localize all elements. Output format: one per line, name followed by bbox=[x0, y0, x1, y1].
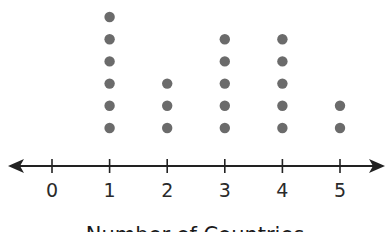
x-tick-label-5: 5 bbox=[334, 179, 346, 201]
data-dot bbox=[335, 123, 345, 133]
data-dot bbox=[220, 123, 230, 133]
data-dot bbox=[162, 78, 172, 88]
x-axis-tick-labels: 012345 bbox=[46, 179, 346, 201]
x-tick-label-2: 2 bbox=[161, 179, 173, 201]
data-dot bbox=[220, 34, 230, 44]
data-dot bbox=[220, 56, 230, 66]
dot-plot-dots bbox=[104, 12, 345, 133]
data-dot bbox=[104, 34, 114, 44]
data-dot bbox=[277, 78, 287, 88]
data-dot bbox=[104, 101, 114, 111]
x-tick-label-3: 3 bbox=[219, 179, 231, 201]
data-dot bbox=[277, 34, 287, 44]
x-tick-label-1: 1 bbox=[104, 179, 116, 201]
data-dot bbox=[335, 101, 345, 111]
x-axis-title: Number of Countries bbox=[86, 223, 305, 232]
data-dot bbox=[277, 101, 287, 111]
data-dot bbox=[220, 101, 230, 111]
data-dot bbox=[277, 123, 287, 133]
data-dot bbox=[220, 78, 230, 88]
data-dot bbox=[162, 123, 172, 133]
x-tick-label-0: 0 bbox=[46, 179, 58, 201]
data-dot bbox=[104, 56, 114, 66]
data-dot bbox=[277, 56, 287, 66]
data-dot bbox=[162, 101, 172, 111]
data-dot bbox=[104, 123, 114, 133]
x-tick-label-4: 4 bbox=[276, 179, 288, 201]
data-dot bbox=[104, 78, 114, 88]
dot-plot: 012345 Number of Countries bbox=[0, 0, 389, 232]
data-dot bbox=[104, 12, 114, 22]
x-axis: 012345 bbox=[8, 159, 385, 201]
